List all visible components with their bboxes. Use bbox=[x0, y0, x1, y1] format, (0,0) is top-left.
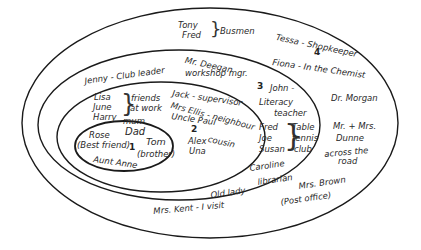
label-literacy: Literacy bbox=[259, 98, 293, 107]
label-una: Una bbox=[189, 147, 206, 156]
label-best-friend: (Best friend) bbox=[77, 141, 130, 150]
label-teacher: teacher bbox=[274, 109, 307, 118]
label-dunne-2: Dunne bbox=[336, 134, 364, 143]
label-at-work: at work bbox=[130, 104, 162, 113]
label-table: Table bbox=[292, 123, 315, 132]
ring-1-number: 1 bbox=[129, 142, 135, 152]
label-dr-morgan: Dr. Morgan bbox=[331, 94, 378, 103]
label-road: road bbox=[338, 157, 357, 166]
label-tennis: tennis bbox=[292, 134, 318, 143]
label-dad: Dad bbox=[125, 127, 145, 136]
label-rose: Rose bbox=[89, 131, 110, 140]
ring-2-number: 2 bbox=[191, 124, 197, 134]
label-fred-busman: Fred bbox=[182, 31, 201, 40]
ring-3-number: 3 bbox=[257, 81, 263, 91]
label-deegan-2: workshop mgr. bbox=[185, 69, 248, 78]
label-mum: mum bbox=[123, 117, 145, 126]
label-tom: Tom bbox=[146, 137, 166, 146]
label-harry: Harry bbox=[93, 113, 117, 122]
label-june: June bbox=[93, 103, 112, 112]
label-tony: Tony bbox=[178, 21, 198, 30]
ring-4-number: 4 bbox=[314, 47, 320, 57]
label-alex: Alex bbox=[188, 137, 206, 146]
label-susan: Susan bbox=[259, 145, 285, 154]
label-club: club bbox=[294, 145, 312, 154]
label-joe: Joe bbox=[259, 134, 272, 143]
label-john: John - bbox=[270, 84, 294, 93]
label-dunne-1: Mr. + Mrs. bbox=[333, 122, 376, 131]
label-fred-tt: Fred bbox=[259, 123, 278, 132]
label-brother: (brother) bbox=[137, 150, 175, 159]
label-friends: friends bbox=[131, 94, 160, 103]
label-busmen: Busmen bbox=[220, 27, 255, 36]
label-lisa: Lisa bbox=[94, 93, 111, 102]
